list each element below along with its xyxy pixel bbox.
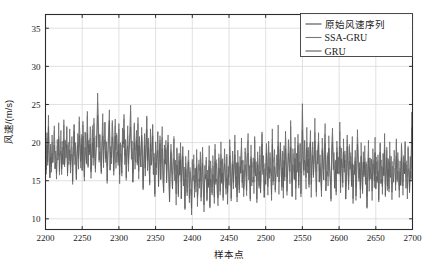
x-tick-label: 2700 [404, 233, 423, 243]
x-tick-label: 2300 [110, 233, 129, 243]
x-axis-title: 样本点 [214, 249, 244, 260]
y-tick-label: 15 [32, 176, 42, 186]
x-tick-label: 2550 [293, 233, 312, 243]
x-tick-label: 2500 [257, 233, 276, 243]
x-tick-label: 2250 [73, 233, 92, 243]
chart-canvas: 2200225023002350240024502500255026002650… [0, 0, 430, 274]
x-tick-label: 2350 [147, 233, 166, 243]
y-axis-title: 风速/(m/s) [3, 100, 14, 144]
legend-label-3: GRU [325, 46, 347, 57]
y-tick-label: 20 [32, 138, 42, 148]
y-tick-label: 10 [32, 214, 42, 224]
x-tick-label: 2450 [220, 233, 239, 243]
legend-label-2: SSA-GRU [325, 32, 369, 43]
y-tick-label: 25 [32, 100, 42, 110]
chart-legend: 原始风速序列SSA-GRUGRU [301, 14, 413, 57]
x-tick-label: 2400 [183, 233, 202, 243]
x-tick-label: 2600 [330, 233, 349, 243]
y-tick-label: 35 [32, 24, 42, 34]
x-tick-label: 2650 [367, 233, 386, 243]
y-tick-label: 30 [32, 62, 42, 72]
wind-speed-chart-figure: 2200225023002350240024502500255026002650… [0, 0, 430, 274]
legend-label-1: 原始风速序列 [325, 19, 385, 30]
x-tick-label: 2200 [37, 233, 56, 243]
